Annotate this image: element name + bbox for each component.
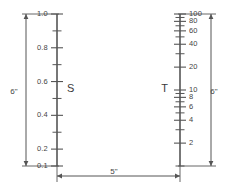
tick-label-T-6: 8 (189, 94, 193, 102)
dim-label-separation: 5" (110, 168, 117, 176)
tick-label-T-7: 6 (189, 103, 193, 111)
scale-name-S: S (67, 83, 74, 94)
tick-label-S-3: 0.4 (37, 112, 48, 120)
tick-label-T-8: 4 (189, 116, 193, 124)
scale-name-T: T (161, 83, 168, 94)
tick-label-S-0: 1.0 (37, 10, 48, 18)
dim-label-right-height: 6" (210, 88, 217, 96)
scale-diagram (0, 0, 233, 193)
tick-label-S-2: 0.6 (37, 78, 48, 86)
tick-label-S-1: 0.8 (37, 44, 48, 52)
tick-label-T-3: 40 (189, 40, 198, 48)
tick-label-T-4: 20 (189, 63, 198, 71)
tick-label-S-4: 0.2 (37, 145, 48, 153)
dim-label-left-height: 6" (10, 88, 17, 96)
diagram-background (0, 0, 233, 193)
tick-label-S-5: 0.1 (37, 162, 48, 170)
tick-label-T-9: 2 (189, 139, 193, 147)
tick-label-T-1: 80 (189, 18, 198, 26)
tick-label-T-2: 60 (189, 27, 198, 35)
